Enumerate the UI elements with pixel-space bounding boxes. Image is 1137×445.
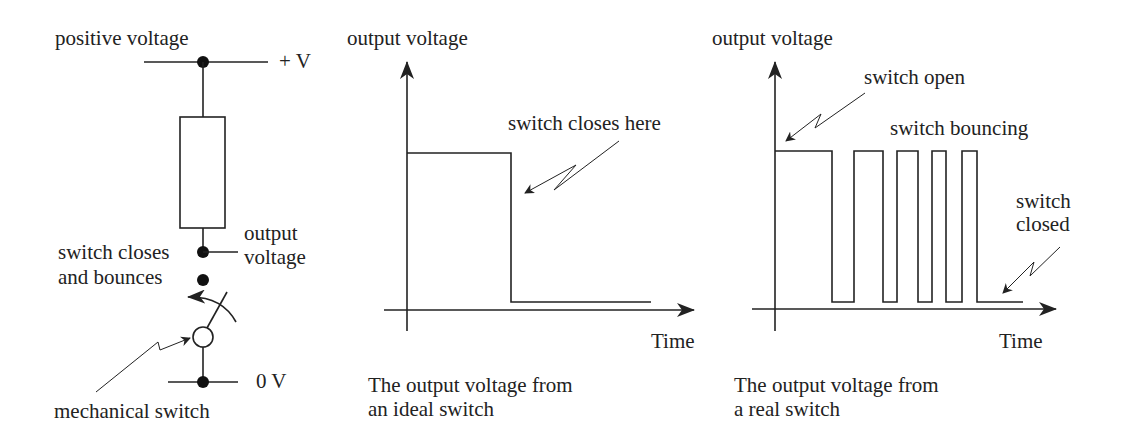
resistor-icon xyxy=(180,117,225,228)
output-voltage-label-line1: output xyxy=(244,222,298,245)
closed-annotation-arrow-icon xyxy=(1003,247,1060,293)
contact-dot xyxy=(197,274,209,286)
ideal-y-axis-label: output voltage xyxy=(347,27,468,50)
positive-voltage-label: positive voltage xyxy=(55,27,189,50)
circuit-schematic xyxy=(96,56,268,392)
closed-annotation-label-line1: switch xyxy=(1016,190,1071,213)
real-x-axis-label: Time xyxy=(999,330,1043,353)
mechanical-switch-label: mechanical switch xyxy=(54,400,210,423)
switch-pointer-arrow-icon xyxy=(96,338,190,392)
real-y-axis-label: output voltage xyxy=(712,27,833,50)
bouncing-annotation-label: switch bouncing xyxy=(890,117,1028,140)
ideal-waveform xyxy=(407,153,651,302)
contact-label-line2: and bounces xyxy=(58,266,162,289)
ideal-annotation-arrow-icon xyxy=(525,141,619,193)
ideal-graph xyxy=(384,62,694,331)
real-caption-line1: The output voltage from xyxy=(734,373,939,397)
ideal-caption-line2: an ideal switch xyxy=(368,397,494,421)
ground-voltage-label: 0 V xyxy=(256,370,287,393)
real-caption-line2: a real switch xyxy=(734,397,840,421)
real-graph xyxy=(752,62,1060,331)
supply-voltage-label: + V xyxy=(279,50,311,73)
closed-annotation-label-line2: closed xyxy=(1016,213,1070,236)
output-voltage-label-line2: voltage xyxy=(244,246,306,269)
switch-arm xyxy=(207,292,227,328)
ideal-x-axis-label: Time xyxy=(651,330,695,353)
open-annotation-label: switch open xyxy=(864,66,965,89)
open-annotation-arrow-icon xyxy=(786,93,865,141)
switch-pivot-icon xyxy=(193,327,213,347)
ground-node-dot xyxy=(197,376,209,388)
real-waveform xyxy=(775,151,1023,302)
contact-label-line1: switch closes xyxy=(58,241,169,264)
ideal-annotation-label: switch closes here xyxy=(508,112,661,135)
ideal-caption-line1: The output voltage from xyxy=(368,373,573,397)
